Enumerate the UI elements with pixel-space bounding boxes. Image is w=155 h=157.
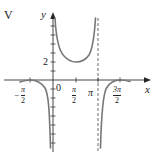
tick-label-pi: π bbox=[88, 88, 93, 98]
frac-numerator: π bbox=[72, 86, 76, 94]
frac-numerator: 3π bbox=[113, 86, 121, 94]
x-axis-arrow-icon bbox=[144, 77, 151, 82]
tick-label-three-half-pi: 3π 2 bbox=[113, 86, 121, 105]
tick-label-half-pi: π 2 bbox=[72, 86, 76, 105]
frac-numerator: π bbox=[21, 86, 25, 94]
tick-label-neg-sign: − bbox=[14, 91, 19, 100]
frac-denominator: 2 bbox=[115, 97, 119, 105]
y-axis-label: y bbox=[41, 9, 46, 20]
frac-denominator: 2 bbox=[72, 97, 76, 105]
frac-denominator: 2 bbox=[21, 97, 25, 105]
x-axis-label: x bbox=[145, 84, 150, 95]
curve-middle-branch bbox=[55, 18, 96, 62]
function-plot bbox=[0, 0, 155, 157]
panel-label: V bbox=[4, 9, 13, 21]
tick-label-zero: 0 bbox=[56, 83, 61, 93]
tick-label-neg-half-pi: π 2 bbox=[21, 86, 25, 105]
tick-label-two: 2 bbox=[43, 57, 48, 67]
